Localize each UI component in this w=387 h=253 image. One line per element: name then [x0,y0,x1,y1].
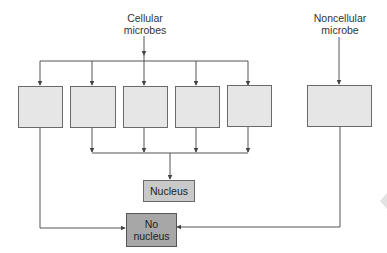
noncellular-label-line1: Noncellular [302,12,378,24]
cellular-box-3 [123,86,168,128]
page-edge-mark-icon [380,193,387,209]
noncellular-label-line2: microbe [302,24,378,36]
cellular-box-4 [175,86,220,128]
cellular-label-line2: microbes [110,24,180,36]
no-nucleus-label-line1: No [133,218,169,230]
noncellular-box [307,85,372,127]
cellular-box-2 [70,86,116,128]
nucleus-label: Nucleus [150,185,188,197]
cellular-label-line1: Cellular [110,12,180,24]
cellular-box-5 [227,85,272,127]
nucleus-box: Nucleus [143,180,195,202]
cellular-box-1 [18,86,63,128]
no-nucleus-box: No nucleus [126,213,177,247]
no-nucleus-label-line2: nucleus [133,230,169,242]
noncellular-microbe-label: Noncellular microbe [302,12,378,36]
cellular-microbes-label: Cellular microbes [110,12,180,36]
